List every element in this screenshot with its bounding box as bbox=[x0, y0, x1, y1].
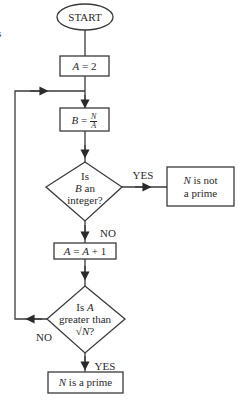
prime-var: N bbox=[59, 376, 66, 388]
check-integer-line1: Is bbox=[56, 170, 114, 182]
fraction-denominator: A bbox=[90, 122, 97, 130]
check-integer-label: Is B an integer? bbox=[56, 170, 114, 206]
no-label-integer: NO bbox=[98, 227, 118, 239]
check-sqrt-label: Is A greater than √N? bbox=[52, 301, 118, 337]
check-sqrt-line1: Is bbox=[76, 301, 87, 313]
prime-rest: is a prime bbox=[66, 376, 112, 388]
increment-op: = bbox=[71, 245, 83, 257]
yes-label-sqrt: YES bbox=[92, 360, 118, 372]
check-integer-var: B bbox=[75, 182, 82, 194]
increment-lhs: A bbox=[64, 245, 71, 257]
not-prime-label: N is not a prime bbox=[167, 174, 234, 200]
increment-rhs-rest: + 1 bbox=[89, 245, 106, 257]
increment-label: A = A + 1 bbox=[54, 245, 116, 257]
increment-rhs-var: A bbox=[82, 245, 89, 257]
check-sqrt-q: ? bbox=[89, 325, 94, 337]
no-label-sqrt: NO bbox=[34, 331, 54, 343]
init-value: 2 bbox=[91, 60, 97, 72]
not-prime-line2: a prime bbox=[167, 187, 234, 200]
check-sqrt-line2: greater than bbox=[52, 313, 118, 325]
not-prime-line1: is not bbox=[191, 174, 218, 186]
check-integer-line3: integer? bbox=[56, 194, 114, 206]
check-integer-line2: an bbox=[82, 182, 95, 194]
start-label: START bbox=[57, 11, 113, 23]
init-label: A = 2 bbox=[60, 60, 109, 72]
prime-label: N is a prime bbox=[48, 376, 123, 388]
not-prime-var: N bbox=[183, 174, 190, 186]
yes-label-integer: YES bbox=[130, 169, 156, 181]
divide-label: B = NA bbox=[60, 110, 109, 130]
check-sqrt-var-a: A bbox=[87, 301, 94, 313]
init-op: = bbox=[79, 60, 91, 72]
divide-fraction: NA bbox=[90, 113, 97, 130]
divide-op: = bbox=[78, 114, 90, 126]
